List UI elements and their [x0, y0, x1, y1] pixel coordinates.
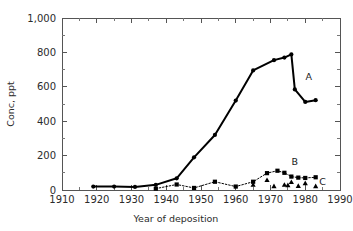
data-point-A	[289, 52, 293, 56]
chart-container: 191019201930194019501960197019801990 020…	[0, 0, 353, 231]
data-point-A	[272, 58, 276, 62]
y-tick-label: 400	[37, 116, 56, 127]
data-point-A	[282, 55, 286, 59]
x-axis-tick-labels: 191019201930194019501960197019801990	[49, 194, 352, 205]
x-tick-label: 1910	[49, 194, 74, 205]
data-point-A	[213, 133, 217, 137]
x-axis-title: Year of deposition	[133, 213, 219, 224]
data-point-B	[213, 180, 217, 184]
data-point-B	[314, 175, 318, 179]
data-point-A	[192, 155, 196, 159]
data-point-B	[192, 186, 196, 190]
concentration-vs-year-line-chart: 191019201930194019501960197019801990 020…	[0, 0, 353, 231]
data-point-B	[303, 176, 307, 180]
x-tick-label: 1990	[327, 194, 352, 205]
y-tick-label: 200	[37, 150, 56, 161]
data-point-B	[289, 174, 293, 178]
y-tick-label: 0	[50, 185, 56, 196]
y-tick-label: 800	[37, 47, 56, 58]
data-point-A	[154, 183, 158, 187]
x-tick-label: 1970	[258, 194, 283, 205]
data-point-B	[282, 171, 286, 175]
x-tick-label: 1960	[223, 194, 248, 205]
data-point-B	[296, 176, 300, 180]
x-tick-label: 1980	[293, 194, 318, 205]
y-axis-title: Conc, ppt	[5, 81, 16, 127]
data-point-B	[154, 187, 158, 191]
data-point-B	[234, 184, 238, 188]
series-annotation-A: A	[305, 71, 312, 82]
data-point-A	[112, 184, 116, 188]
data-point-A	[303, 100, 307, 104]
x-tick-label: 1940	[154, 194, 179, 205]
data-point-A	[293, 87, 297, 91]
data-point-A	[251, 68, 255, 72]
series-annotation-B: B	[292, 156, 299, 167]
data-point-A	[133, 185, 137, 189]
data-point-B	[265, 171, 269, 175]
series-annotation-C: C	[319, 176, 326, 187]
y-tick-label: 600	[37, 81, 56, 92]
x-tick-label: 1950	[188, 194, 213, 205]
data-point-A	[234, 98, 238, 102]
y-tick-label: 1,000	[27, 13, 56, 24]
data-point-A	[314, 98, 318, 102]
x-tick-label: 1920	[84, 194, 109, 205]
x-tick-label: 1930	[119, 194, 144, 205]
data-point-A	[91, 184, 95, 188]
data-point-A	[175, 176, 179, 180]
data-point-B	[275, 169, 279, 173]
data-point-B	[175, 182, 179, 186]
